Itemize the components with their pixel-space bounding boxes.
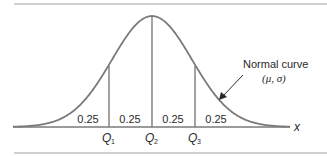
q2-sub: 2 <box>154 138 158 145</box>
x-axis-label: x <box>293 120 301 134</box>
annotation-params: (μ, σ) <box>262 72 286 85</box>
q1-sub: 1 <box>111 138 115 145</box>
annotation-arrow-shaft <box>222 75 243 97</box>
area-label-4: 0.25 <box>205 113 226 125</box>
area-label-1: 0.25 <box>77 113 98 125</box>
normal-curve-diagram: 0.25 0.25 0.25 0.25 Q 1 Q 2 Q 3 x Normal… <box>0 0 327 156</box>
area-label-2: 0.25 <box>119 113 140 125</box>
area-label-3: 0.25 <box>162 113 183 125</box>
annotation-title: Normal curve <box>243 58 308 70</box>
q3-label: Q <box>188 131 197 145</box>
q2-label: Q <box>145 131 154 145</box>
q3-sub: 3 <box>197 138 201 145</box>
q1-label: Q <box>102 131 111 145</box>
